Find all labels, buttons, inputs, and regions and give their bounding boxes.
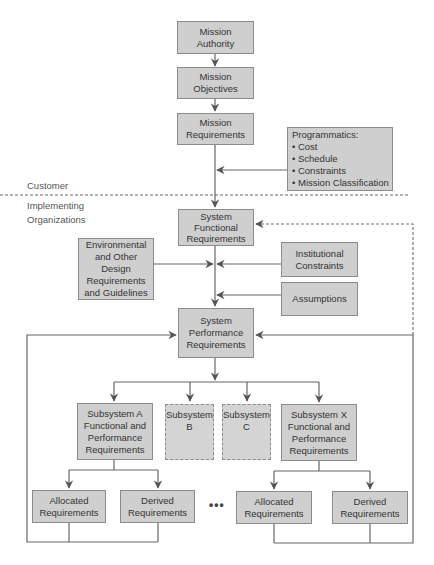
system-performance-requirements-box: System Performance Requirements [178, 308, 254, 358]
ellipsis: ••• [209, 498, 225, 512]
subsystem-a-box: Subsystem A Functional and Performance R… [77, 403, 153, 460]
derived-requirements-x-box: Derived Requirements [332, 491, 408, 524]
programmatics-box: Programmatics: • Cost • Schedule • Const… [287, 127, 393, 191]
subsystem-c-box: Subsystem C [222, 404, 271, 460]
allocated-requirements-x-box: Allocated Requirements [236, 491, 312, 524]
mission-authority-box: Mission Authority [177, 21, 254, 54]
customer-label: Customer [27, 180, 68, 192]
assumptions-box: Assumptions [281, 282, 358, 316]
subsystem-x-box: Subsystem X Functional and Performance R… [281, 404, 357, 461]
mission-objectives-box: Mission Objectives [177, 67, 254, 99]
environmental-requirements-box: Environmental and Other Design Requireme… [78, 238, 154, 300]
subsystem-b-box: Subsystem B [165, 404, 214, 460]
allocated-requirements-a-box: Allocated Requirements [32, 490, 106, 523]
implementing-organizations-label: Implementing Organizations [27, 199, 86, 227]
institutional-constraints-box: Institutional Constraints [281, 242, 358, 277]
derived-requirements-a-box: Derived Requirements [120, 490, 195, 523]
mission-requirements-box: Mission Requirements [177, 113, 254, 145]
system-functional-requirements-box: System Functional Requirements [178, 209, 254, 246]
